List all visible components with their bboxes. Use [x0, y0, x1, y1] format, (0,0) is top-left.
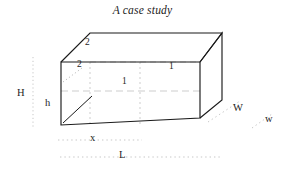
label-outer-width: W: [233, 103, 243, 114]
label-thickness-right: 1: [169, 62, 174, 72]
figure-container: A case study: [0, 0, 285, 172]
label-inner-width: w: [265, 114, 273, 125]
label-inner-length: x: [90, 133, 95, 144]
label-thickness-mid: 1: [122, 77, 127, 87]
label-inner-height: h: [45, 98, 50, 109]
interior-construction-lines: [61, 62, 200, 125]
box-diagram: [0, 0, 285, 172]
label-outer-height: H: [17, 88, 25, 99]
inner-floor-edge: [63, 96, 92, 123]
box-right-face: [200, 33, 222, 118]
label-outer-length: L: [119, 150, 125, 161]
box-front-face: [61, 62, 200, 125]
guide-thickness-left: [63, 68, 82, 82]
label-thickness-top: 2: [85, 38, 90, 48]
inner-floor-diagonal: [63, 96, 92, 123]
label-thickness-left: 2: [77, 60, 82, 70]
